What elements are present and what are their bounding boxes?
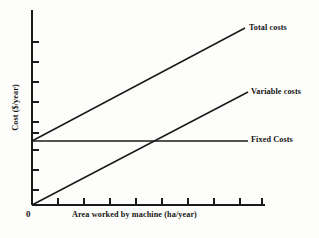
total-costs-label: Total costs: [249, 23, 287, 32]
y-axis-label: Cost ($/year): [11, 72, 20, 144]
variable-costs-label: Variable costs: [251, 87, 301, 96]
y-axis-ticks: [32, 42, 39, 190]
fixed-costs-label: Fixed Costs: [251, 135, 293, 144]
origin-tick-label: 0: [26, 209, 31, 219]
x-axis-label: Area worked by machine (ha/year): [72, 210, 197, 219]
chart-plot-area: [0, 0, 319, 238]
cost-vs-area-chart: Total costs Variable costs Fixed Costs A…: [0, 0, 319, 238]
variable-costs-line: [32, 92, 248, 205]
x-axis-ticks: [58, 198, 262, 205]
total-costs-line: [32, 28, 245, 141]
